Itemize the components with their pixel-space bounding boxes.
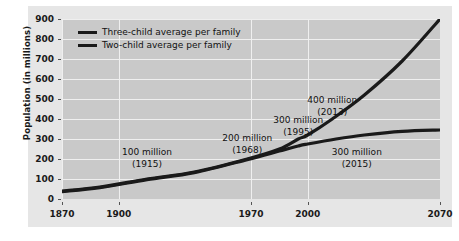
annotation: 400 million(2013)	[307, 95, 357, 118]
legend-item: Two-child average per family	[78, 39, 298, 52]
legend-item-label: Two-child average per family	[102, 40, 232, 51]
y-axis-tick-label: 800	[20, 35, 54, 44]
chart-legend: Three-child average per family Two-child…	[78, 26, 298, 52]
y-axis-tick-label: 300	[20, 135, 54, 144]
legend-item-label: Three-child average per family	[102, 27, 241, 38]
y-axis-tick-mark	[58, 39, 61, 40]
x-axis-tick-label: 1900	[95, 210, 143, 219]
y-axis-tick-label: 100	[20, 175, 54, 184]
annotation-year: (1995)	[273, 127, 323, 139]
x-axis-tick-mark	[62, 202, 63, 205]
y-axis-tick-mark	[58, 199, 61, 200]
legend-line-icon	[78, 31, 97, 34]
y-axis-tick-mark	[58, 159, 61, 160]
x-axis-tick-label: 2070	[416, 210, 459, 219]
y-axis-tick-label: 700	[20, 55, 54, 64]
y-axis-tick-mark	[58, 59, 61, 60]
annotation-year: (1915)	[122, 159, 172, 171]
y-axis-tick-mark	[58, 79, 61, 80]
legend-item: Three-child average per family	[78, 26, 298, 39]
x-axis-tick-label: 1870	[38, 210, 86, 219]
annotation: 300 million(2015)	[332, 147, 382, 170]
x-axis-tick-mark	[251, 202, 252, 205]
y-axis-tick-mark	[58, 19, 61, 20]
annotation: 300 million(1995)	[273, 115, 323, 138]
y-axis-tick-label: 500	[20, 95, 54, 104]
y-axis-tick-mark	[58, 99, 61, 100]
annotation-year: (1968)	[222, 145, 272, 157]
y-axis-tick-label: 400	[20, 115, 54, 124]
x-axis-tick-label: 2000	[284, 210, 332, 219]
y-axis-tick-label: 600	[20, 75, 54, 84]
plot-inner: 100 million(1915)200 million(1968)300 mi…	[62, 19, 440, 199]
y-axis-tick-mark	[58, 139, 61, 140]
annotation: 100 million(1915)	[122, 147, 172, 170]
y-axis-tick-label: 200	[20, 155, 54, 164]
annotation-label: 300 million	[332, 147, 382, 159]
y-axis-tick-label: 0	[20, 195, 54, 204]
annotation-year: (2015)	[332, 159, 382, 171]
annotation-label: 100 million	[122, 147, 172, 159]
annotation-label: 200 million	[222, 133, 272, 145]
chart-figure: Population (in millions) 010020030040050…	[0, 0, 459, 241]
plot-area: 100 million(1915)200 million(1968)300 mi…	[62, 19, 440, 199]
legend-line-icon	[78, 44, 97, 47]
x-axis-tick-mark	[440, 202, 441, 205]
annotation-year: (2013)	[307, 107, 357, 119]
x-axis-tick-mark	[119, 202, 120, 205]
annotation: 200 million(1968)	[222, 133, 272, 156]
y-axis-tick-mark	[58, 119, 61, 120]
annotation-label: 400 million	[307, 95, 357, 107]
y-axis-tick-mark	[58, 179, 61, 180]
x-axis-tick-label: 1970	[227, 210, 275, 219]
x-axis-tick-mark	[308, 202, 309, 205]
y-axis-tick-label: 900	[20, 15, 54, 24]
